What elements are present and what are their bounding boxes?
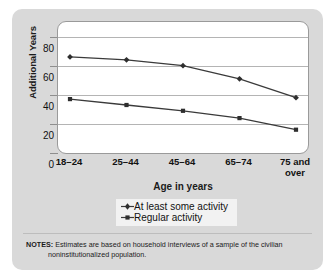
x-tick-label: 65–74 [208, 157, 270, 168]
notes-line-1: Estimates are based on household intervi… [55, 240, 282, 249]
legend-label: Regular activity [134, 212, 202, 223]
legend-label: At least some activity [134, 201, 228, 212]
plot-area [57, 21, 309, 154]
chart-area: Additional Years 020406080 18–2425–4445–… [12, 9, 323, 194]
x-tick-label: 45–64 [151, 157, 213, 168]
data-point-diamond [293, 95, 299, 101]
data-point-diamond [124, 57, 130, 63]
x-tick-label: 18–24 [38, 157, 100, 168]
notes-block: NOTES: Estimates are based on household … [26, 240, 314, 259]
square-marker-icon [121, 212, 134, 223]
data-point-square [68, 97, 72, 101]
series-lines [58, 22, 308, 153]
notes-line-2: noninstitutionalized population. [26, 250, 314, 260]
x-axis-title: Age in years [57, 181, 309, 192]
data-point-square [294, 128, 298, 132]
legend: At least some activity Regular activity [116, 199, 237, 226]
x-tick-label: 25–44 [95, 157, 157, 168]
figure-panel: Additional Years 020406080 18–2425–4445–… [12, 9, 323, 270]
legend-item: Regular activity [121, 212, 228, 223]
x-tick-label: 75 andover [264, 157, 326, 178]
legend-item: At least some activity [121, 201, 228, 212]
data-point-square [237, 116, 241, 120]
data-point-diamond [180, 63, 186, 69]
series-line [70, 99, 296, 130]
y-tick-mark [50, 153, 58, 154]
notes-label: NOTES: [26, 240, 53, 249]
data-point-diamond [67, 54, 73, 60]
data-point-square [124, 103, 128, 107]
diamond-marker-icon [121, 201, 134, 212]
notes-separator [23, 233, 312, 234]
data-point-square [181, 109, 185, 113]
data-point-diamond [237, 76, 243, 82]
